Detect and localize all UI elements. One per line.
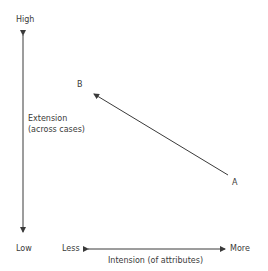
x-axis-title: Intension (of attributes)	[108, 256, 203, 266]
y-axis-low-label: Low	[16, 244, 32, 254]
y-axis-title-line2: (across cases)	[28, 125, 85, 135]
point-a-label: A	[232, 178, 237, 188]
diagram-canvas	[0, 0, 268, 271]
point-b-label: B	[77, 80, 83, 90]
a-to-b-arrow	[94, 94, 228, 175]
y-axis-title-line1: Extension	[28, 114, 67, 124]
y-axis-high-label: High	[16, 15, 34, 25]
x-axis-more-label: More	[230, 244, 250, 254]
x-axis-less-label: Less	[62, 244, 80, 254]
